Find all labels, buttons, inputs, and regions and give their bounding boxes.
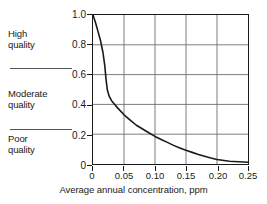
x-tick-label-0: 0: [75, 170, 109, 181]
y-tick-label-0.8: 0.8: [60, 39, 86, 50]
x-tick-label-0.10: 0.10: [138, 170, 172, 181]
quality-band-label-moderate: Moderate quality: [8, 89, 47, 110]
x-tick-label-0.20: 0.20: [201, 170, 235, 181]
x-axis-title: Average annual concentration, ppm: [0, 184, 267, 195]
x-tick-label-0.05: 0.05: [107, 170, 141, 181]
quality-band-label-high: High quality: [8, 29, 35, 50]
y-tick-label-1.0: 1.0: [60, 9, 86, 20]
x-tick-label-0.25: 0.25: [231, 170, 265, 181]
water-quality-chart: High quality Moderate quality Poor quali…: [0, 0, 267, 204]
y-tick-label-0.2: 0.2: [60, 130, 86, 141]
plot-area: [92, 14, 249, 165]
y-tick-label-0.4: 0.4: [60, 99, 86, 110]
quality-band-label-poor: Poor quality: [8, 134, 35, 155]
x-tick-label-0.15: 0.15: [169, 170, 203, 181]
y-tick-label-0.6: 0.6: [60, 69, 86, 80]
quality-index-curve: [93, 15, 248, 164]
